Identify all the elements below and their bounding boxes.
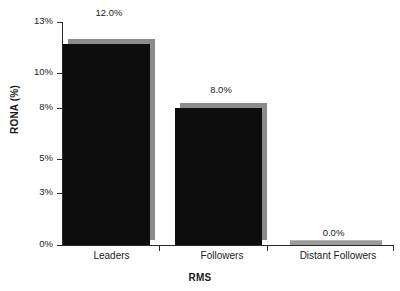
x-category-label-followers: Followers (172, 250, 272, 261)
y-axis-title: RONA (%) (9, 70, 20, 150)
bar-followers[interactable] (175, 108, 262, 245)
x-category-label-leaders: Leaders (63, 250, 160, 261)
bar-value-followers: 8.0% (175, 84, 267, 95)
bar-group-followers[interactable] (175, 103, 267, 245)
y-tick-label-1: 3% (19, 186, 53, 197)
y-tick-label-3: 8% (19, 101, 53, 112)
bar-chart: RONA (%) RMS 0% 3% 5% 8% 10% 13% (0, 0, 400, 291)
y-tick-label-4: 10% (19, 66, 53, 77)
plot-area: 0% 3% 5% 8% 10% 13% 12.0% (63, 22, 393, 245)
y-tick-label-5: 13% (19, 15, 53, 26)
bar-value-distant-followers: 0.0% (285, 227, 382, 238)
y-tick-label-2: 5% (19, 152, 53, 163)
bar-distant-followers[interactable] (290, 240, 382, 245)
x-axis-title: RMS (0, 272, 400, 283)
y-tick-0: 0% (57, 245, 63, 246)
y-tick-label-0: 0% (19, 238, 53, 249)
x-category-label-distant-followers: Distant Followers (282, 250, 394, 261)
bar-value-leaders: 12.0% (63, 7, 155, 18)
y-tick-5: 13% (57, 22, 63, 23)
bar-group-leaders[interactable] (63, 39, 155, 245)
bar-group-distant-followers[interactable] (285, 239, 382, 245)
x-axis-line (62, 245, 394, 246)
bar-leaders[interactable] (63, 44, 150, 245)
